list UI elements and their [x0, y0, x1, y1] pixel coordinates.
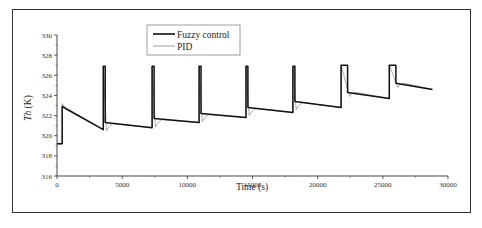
y-axis-title-unit: (K) [23, 95, 34, 111]
x-axis-title: Time (s) [236, 182, 268, 193]
x-tick-label: 5000 [115, 181, 130, 189]
legend-label-pid: PID [177, 42, 192, 52]
series-lines [57, 65, 432, 144]
x-tick-label: 30000 [439, 181, 457, 189]
x-tick-label: 25000 [374, 181, 392, 189]
x-tick-label: 10000 [179, 181, 197, 189]
legend-label-fuzzy: Fuzzy control [177, 30, 230, 40]
y-tick-label: 320 [42, 132, 53, 140]
x-tick-label: 0 [55, 181, 59, 189]
x-tick-label: 20000 [309, 181, 327, 189]
y-tick-label: 322 [42, 112, 53, 120]
y-axis-title-symbol: Th [23, 111, 33, 121]
y-tick-label: 324 [42, 92, 53, 100]
line-chart: 3163183203223243263283300500010000150002… [0, 0, 482, 228]
y-tick-label: 316 [42, 173, 53, 181]
y-axis-title: Th (K) [23, 95, 34, 121]
y-tick-label: 330 [42, 32, 53, 40]
series-pid [57, 65, 432, 144]
legend: Fuzzy control PID [147, 25, 240, 55]
y-tick-label: 326 [42, 72, 53, 80]
y-tick-label: 318 [42, 152, 53, 160]
series-fuzzy-control [57, 65, 432, 144]
y-tick-label: 328 [42, 52, 53, 60]
